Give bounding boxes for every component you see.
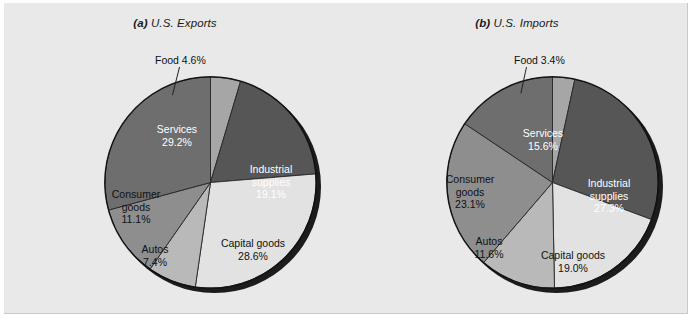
chart-title-text-b: U.S. Imports <box>494 17 559 29</box>
pie-chart-imports: Services 15.6% Industrial supplies 27.3%… <box>441 71 673 309</box>
chart-title-tag-b: (b) <box>475 17 490 29</box>
chart-panel-exports: (a) U.S. Exports Services 29.2% Industri… <box>4 3 346 314</box>
callout-label-food-exports: Food 4.6% <box>155 54 206 66</box>
slice-label-capital-goods-imports: Capital goods 19.0% <box>523 249 623 274</box>
slice-label-consumer-goods-imports: Consumer goods 23.1% <box>427 173 513 211</box>
slice-label-services-imports: Services 15.6% <box>497 127 589 152</box>
slice-label-capital-goods-exports: Capital goods 28.6% <box>203 237 303 262</box>
slice-label-services-exports: Services 29.2% <box>125 123 229 148</box>
chart-title-exports: (a) U.S. Exports <box>4 17 346 29</box>
chart-title-tag-a: (a) <box>133 17 147 29</box>
slice-label-industrial-supplies-imports: Industrial supplies 27.3% <box>563 177 655 215</box>
pie-chart-exports: Services 29.2% Industrial supplies 19.1%… <box>99 71 331 309</box>
callout-label-food-imports: Food 3.4% <box>514 54 565 66</box>
slice-label-consumer-goods-exports: Consumer goods 11.1% <box>93 188 179 226</box>
slice-label-industrial-supplies-exports: Industrial supplies 19.1% <box>225 163 317 201</box>
chart-title-text-a: U.S. Exports <box>151 17 217 29</box>
chart-panel-imports: (b) U.S. Imports Services 15.6% Industri… <box>346 3 688 314</box>
slice-label-autos-imports: Autos 11.6% <box>457 235 521 260</box>
figure-panel: (a) U.S. Exports Services 29.2% Industri… <box>4 3 688 314</box>
chart-title-imports: (b) U.S. Imports <box>346 17 688 29</box>
slice-label-autos-exports: Autos 7.4% <box>125 243 185 268</box>
